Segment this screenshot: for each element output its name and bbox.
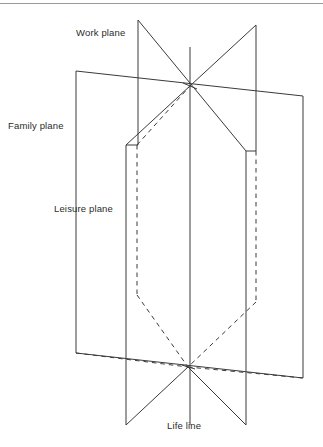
figure-container: Work plane Family plane Leisure plane Li… (0, 0, 323, 447)
hidden-left-upper-diagonal (137, 86, 190, 145)
label-family-plane: Family plane (8, 120, 64, 132)
upper-diagonal-left-to-right (138, 20, 246, 151)
diagram-canvas (0, 0, 323, 447)
diagram-strokes (76, 20, 303, 425)
upper-diagonal-right-to-left (126, 25, 256, 145)
hidden-left-lower-diagonal (137, 295, 188, 367)
label-leisure-plane: Leisure plane (54, 203, 113, 215)
label-life-line: Life line (167, 420, 201, 432)
lower-diagonal-right (188, 367, 246, 425)
label-work-plane: Work plane (76, 27, 125, 39)
lower-diagonal-left (126, 367, 188, 425)
